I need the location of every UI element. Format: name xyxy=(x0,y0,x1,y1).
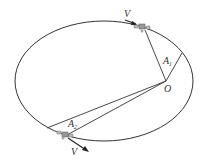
radius-line-a2-start xyxy=(47,81,166,128)
area-label-a2: A2 xyxy=(67,118,77,130)
kepler-diagram: V V A1 A2 O xyxy=(0,0,208,167)
radius-line-a2-end xyxy=(67,81,166,135)
velocity-label-top: V xyxy=(124,8,132,19)
velocity-label-bottom: V xyxy=(71,146,79,157)
area-label-a1: A1 xyxy=(162,55,172,67)
satellite-bottom-icon xyxy=(57,131,73,140)
satellite-top-icon xyxy=(134,24,150,33)
focus-label: O xyxy=(164,83,171,94)
